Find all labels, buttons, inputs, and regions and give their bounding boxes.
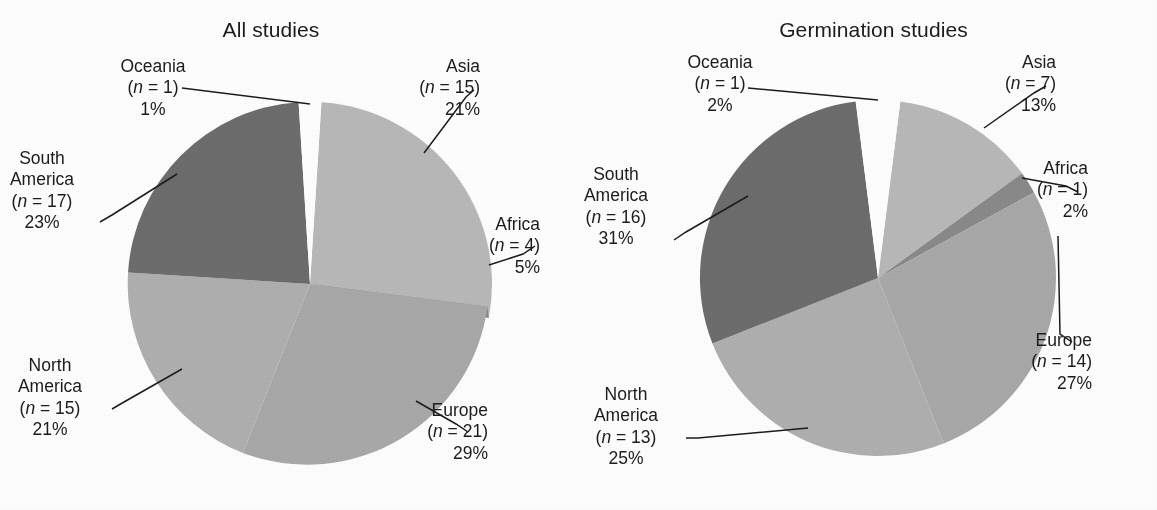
label-south-america-count: (n = 16) — [556, 207, 676, 228]
label-south-america-name-line1: South — [556, 164, 676, 185]
label-asia: Asia (n = 7) 13% — [936, 52, 1056, 116]
chart-panel-all-studies: All studies — [0, 0, 578, 510]
label-north-america-count: (n = 13) — [566, 427, 686, 448]
chart-panel-germination-studies: Germination studies — [578, 0, 1157, 510]
label-europe: Europe (n = 21) 29% — [358, 400, 488, 464]
label-north-america-count: (n = 15) — [0, 398, 110, 419]
label-north-america-name-line2: America — [566, 405, 686, 426]
label-south-america-percent: 23% — [0, 212, 102, 233]
label-asia-name: Asia — [936, 52, 1056, 73]
label-south-america-name-line2: America — [0, 169, 102, 190]
label-africa-percent: 5% — [420, 257, 540, 278]
leader-line-north-america — [686, 428, 808, 438]
label-oceania-name: Oceania — [660, 52, 780, 73]
label-africa: Africa (n = 4) 5% — [420, 214, 540, 278]
label-europe-count: (n = 14) — [962, 351, 1092, 372]
pie-chart-figure: All studies — [0, 0, 1157, 510]
label-europe-percent: 29% — [358, 443, 488, 464]
label-africa: Africa (n = 1) 2% — [968, 158, 1088, 222]
label-oceania-count: (n = 1) — [660, 73, 780, 94]
label-south-america-name-line1: South — [0, 148, 102, 169]
label-north-america: North America (n = 13) 25% — [566, 384, 686, 469]
label-europe-count: (n = 21) — [358, 421, 488, 442]
label-oceania: Oceania (n = 1) 1% — [93, 56, 213, 120]
slice-asia — [310, 102, 492, 318]
label-south-america: South America (n = 17) 23% — [0, 148, 102, 233]
label-africa-name: Africa — [968, 158, 1088, 179]
label-asia-name: Asia — [360, 56, 480, 77]
label-europe-name: Europe — [358, 400, 488, 421]
label-asia-count: (n = 7) — [936, 73, 1056, 94]
label-oceania-count: (n = 1) — [93, 77, 213, 98]
label-north-america-percent: 25% — [566, 448, 686, 469]
label-africa-name: Africa — [420, 214, 540, 235]
slice-south-america — [128, 102, 310, 284]
label-north-america-percent: 21% — [0, 419, 110, 440]
label-oceania: Oceania (n = 1) 2% — [660, 52, 780, 116]
label-oceania-percent: 2% — [660, 95, 780, 116]
label-europe-percent: 27% — [962, 373, 1092, 394]
label-europe-name: Europe — [962, 330, 1092, 351]
label-south-america: South America (n = 16) 31% — [556, 164, 676, 249]
label-africa-percent: 2% — [968, 201, 1088, 222]
label-africa-count: (n = 1) — [968, 179, 1088, 200]
label-africa-count: (n = 4) — [420, 235, 540, 256]
label-oceania-percent: 1% — [93, 99, 213, 120]
label-north-america: North America (n = 15) 21% — [0, 355, 110, 440]
label-asia: Asia (n = 15) 21% — [360, 56, 480, 120]
label-north-america-name-line1: North — [0, 355, 110, 376]
label-north-america-name-line2: America — [0, 376, 110, 397]
label-south-america-count: (n = 17) — [0, 191, 102, 212]
label-asia-percent: 21% — [360, 99, 480, 120]
pie-slices-germination-studies — [700, 100, 1056, 456]
label-north-america-name-line1: North — [566, 384, 686, 405]
label-south-america-name-line2: America — [556, 185, 676, 206]
label-south-america-percent: 31% — [556, 228, 676, 249]
label-oceania-name: Oceania — [93, 56, 213, 77]
label-asia-count: (n = 15) — [360, 77, 480, 98]
label-europe: Europe (n = 14) 27% — [962, 330, 1092, 394]
leader-line-europe — [1058, 236, 1072, 342]
label-asia-percent: 13% — [936, 95, 1056, 116]
